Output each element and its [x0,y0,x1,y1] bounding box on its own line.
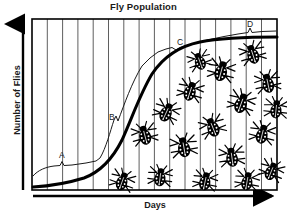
plot-area [0,0,287,215]
phase-label-d: D [247,19,253,29]
phase-label-a: A [59,150,65,160]
fly-population-figure: Fly Population Number of Flies Days [0,0,287,215]
phase-label-b: B [109,112,115,122]
phase-label-c: C [177,37,183,47]
